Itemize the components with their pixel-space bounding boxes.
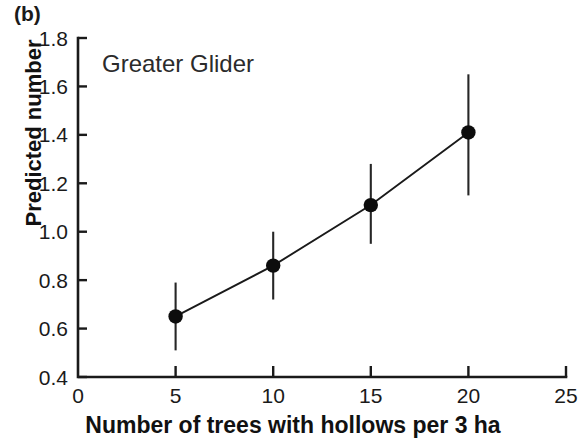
y-tick-label: 1.2: [39, 172, 68, 195]
data-point-marker: [364, 198, 378, 212]
x-tick-label: 5: [170, 384, 182, 407]
y-tick-label: 1.6: [39, 75, 68, 98]
data-point-marker: [168, 309, 182, 323]
y-tick-label: 1.8: [39, 27, 68, 50]
x-tick-label: 10: [262, 384, 285, 407]
data-point-marker: [461, 125, 475, 139]
x-axis-ticks: 0510152025: [72, 366, 578, 407]
figure-panel-b: (b) Greater Glider Predicted number Numb…: [0, 0, 586, 443]
axis-spine: [78, 38, 566, 377]
series-connecting-line: [176, 132, 469, 316]
data-series-greater-glider: [168, 74, 475, 350]
y-tick-label: 0.8: [39, 269, 68, 292]
axis-lines: [78, 38, 566, 377]
x-tick-label: 15: [359, 384, 382, 407]
y-axis-ticks: 0.40.60.81.01.21.41.61.8: [39, 27, 87, 389]
y-tick-label: 1.0: [39, 220, 68, 243]
chart-plot-area: 0.40.60.81.01.21.41.61.8 0510152025: [0, 0, 586, 443]
y-tick-label: 0.4: [39, 366, 69, 389]
x-tick-label: 25: [554, 384, 577, 407]
x-tick-label: 0: [72, 384, 84, 407]
data-point-marker: [266, 258, 280, 272]
y-tick-label: 0.6: [39, 317, 68, 340]
x-tick-label: 20: [457, 384, 480, 407]
y-tick-label: 1.4: [39, 123, 69, 146]
